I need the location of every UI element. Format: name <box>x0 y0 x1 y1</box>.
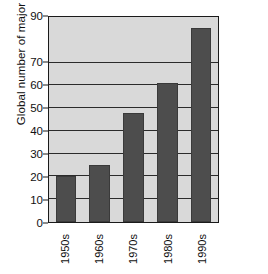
y-axis-tick-label: 20 <box>30 171 43 183</box>
y-axis-tick-label: 50 <box>30 102 43 114</box>
bar-slot <box>83 17 116 222</box>
bar-slot <box>151 17 184 222</box>
x-axis-tick-labels: 1950s1960s1970s1980s1990s <box>48 223 219 274</box>
bar <box>123 113 143 222</box>
bar <box>157 83 177 222</box>
x-axis-tick-slot: 1990s <box>185 223 218 274</box>
x-axis-tick-label: 1950s <box>59 234 71 264</box>
x-axis-tick-label: 1970s <box>127 234 139 264</box>
x-axis-tick-slot: 1980s <box>151 223 184 274</box>
y-axis-tick-label: 10 <box>30 194 43 206</box>
y-axis-tick-label: 90 <box>30 10 43 22</box>
bar-chart: Global number of major disasters 0102030… <box>0 0 268 274</box>
x-axis-tick-slot: 1960s <box>83 223 116 274</box>
y-axis-tick-label: 60 <box>30 79 43 91</box>
plot-area <box>48 16 219 223</box>
bar-series <box>49 17 218 222</box>
y-axis-tick-label: 30 <box>30 148 43 160</box>
bar-slot <box>185 17 218 222</box>
y-axis-tick-label: 70 <box>30 56 43 68</box>
bar <box>56 176 76 222</box>
x-axis-tick-label: 1990s <box>196 234 208 264</box>
x-axis-tick-label: 1980s <box>162 234 174 264</box>
y-axis-tick-label: 40 <box>30 125 43 137</box>
x-axis-tick-label: 1960s <box>93 234 105 264</box>
bar <box>191 28 211 222</box>
x-axis-tick-slot: 1970s <box>117 223 150 274</box>
bar <box>89 165 109 222</box>
bar-slot <box>49 17 82 222</box>
y-axis-tick-labels: 01020304050607090 <box>0 0 48 274</box>
x-axis-tick-slot: 1950s <box>48 223 81 274</box>
bar-slot <box>117 17 150 222</box>
